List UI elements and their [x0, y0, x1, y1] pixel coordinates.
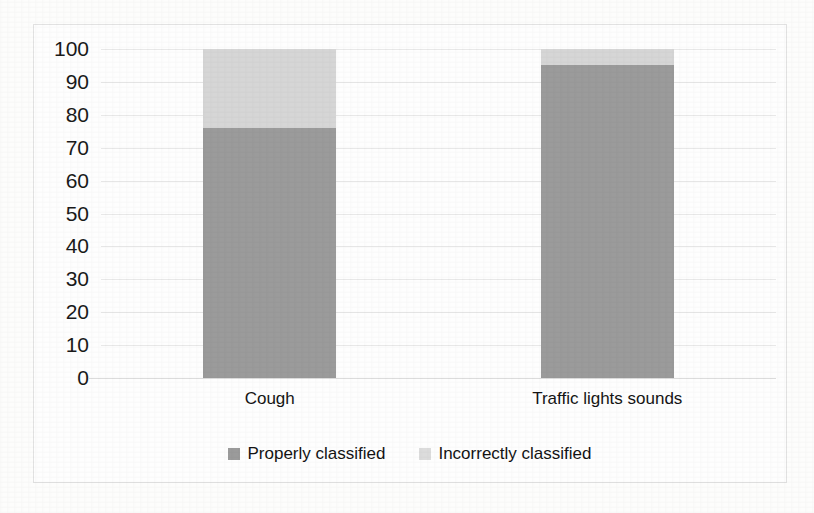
y-axis-tick-label: 100	[29, 38, 89, 59]
y-axis-tick-label: 40	[29, 235, 89, 256]
bar-stack[interactable]	[541, 49, 674, 378]
legend-label: Properly classified	[247, 444, 385, 464]
chart-legend: Properly classifiedIncorrectly classifie…	[34, 441, 786, 467]
legend-swatch-icon	[419, 448, 431, 460]
legend-swatch-icon	[228, 448, 240, 460]
bar-segment[interactable]	[203, 49, 336, 128]
y-axis-tick-label: 20	[29, 301, 89, 322]
y-axis-tick-label: 10	[29, 334, 89, 355]
y-axis-tick-label: 30	[29, 268, 89, 289]
chart-frame: 1009080706050403020100 CoughTraffic ligh…	[33, 24, 787, 483]
axis-baseline	[89, 378, 776, 379]
x-axis: CoughTraffic lights sounds	[101, 389, 776, 419]
bar-stack[interactable]	[203, 49, 336, 378]
bar-segment[interactable]	[541, 65, 674, 378]
plot-area	[101, 49, 776, 378]
x-axis-category-label: Traffic lights sounds	[439, 389, 777, 409]
bar-segment[interactable]	[541, 49, 674, 65]
x-axis-category-label: Cough	[101, 389, 439, 409]
y-axis: 1009080706050403020100	[29, 49, 89, 378]
y-axis-tick-label: 50	[29, 203, 89, 224]
legend-item[interactable]: Properly classified	[228, 444, 385, 464]
y-axis-tick-label: 90	[29, 71, 89, 92]
legend-item[interactable]: Incorrectly classified	[419, 444, 591, 464]
y-axis-tick-label: 0	[29, 367, 89, 388]
legend-label: Incorrectly classified	[438, 444, 591, 464]
y-axis-tick-label: 70	[29, 137, 89, 158]
scanned-page: 1009080706050403020100 CoughTraffic ligh…	[0, 0, 814, 513]
y-axis-tick-label: 80	[29, 104, 89, 125]
bar-segment[interactable]	[203, 128, 336, 378]
bar-group	[101, 49, 776, 378]
y-axis-tick-label: 60	[29, 170, 89, 191]
